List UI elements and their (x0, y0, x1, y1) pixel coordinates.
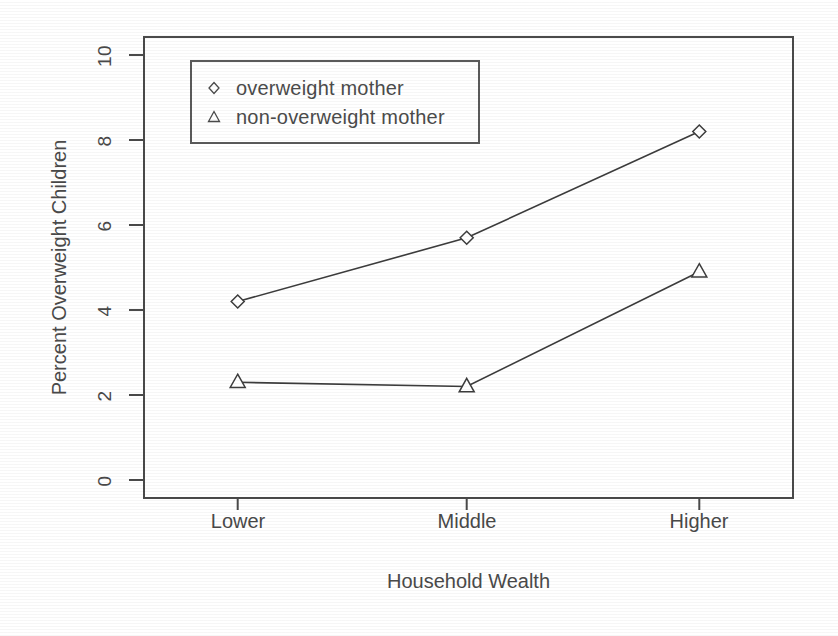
x-tick-label-lower: Lower (211, 510, 265, 533)
y-axis-title: Percent Overweight Children (48, 36, 78, 499)
y-axis-ticks (129, 55, 143, 480)
chart-figure: 10 8 6 4 2 0 Lower Middle Higher Percent… (0, 0, 838, 636)
y-tick-label-10: 10 (94, 36, 116, 76)
x-axis-title: Household Wealth (143, 570, 794, 593)
legend-label-non-overweight-mother: non-overweight mother (236, 106, 445, 129)
legend-entry-overweight-mother: overweight mother (192, 73, 404, 103)
x-tick-label-higher: Higher (670, 510, 729, 533)
y-tick-label-6: 6 (94, 206, 116, 246)
legend-label-overweight-mother: overweight mother (236, 77, 404, 100)
diamond-marker-icon (192, 79, 236, 97)
x-axis-ticks (238, 499, 700, 510)
triangle-marker-icon (192, 108, 236, 126)
legend-entry-non-overweight-mother: non-overweight mother (192, 102, 445, 132)
y-tick-label-2: 2 (94, 376, 116, 416)
y-tick-label-4: 4 (94, 291, 116, 331)
legend: overweight mother non-overweight mother (190, 60, 480, 144)
y-tick-label-0: 0 (94, 461, 116, 501)
x-tick-label-middle: Middle (438, 510, 497, 533)
y-tick-label-8: 8 (94, 121, 116, 161)
